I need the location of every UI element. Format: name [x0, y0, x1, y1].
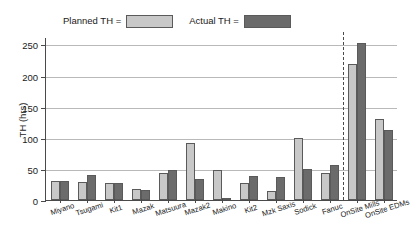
bar-group [73, 38, 100, 200]
legend-label-planned: Planned TH = [63, 16, 121, 26]
x-axis-tick [60, 199, 61, 203]
legend-entry-actual: Actual TH = [189, 15, 291, 28]
bar-planned [186, 143, 195, 200]
bar-group [208, 38, 235, 200]
bar-planned [267, 191, 276, 200]
x-axis-tick [303, 199, 304, 203]
legend-entry-planned: Planned TH = [63, 15, 173, 28]
x-axis-label-cell: Miyano [46, 203, 73, 247]
x-axis-label-text: Makino [211, 201, 237, 217]
bar-planned [348, 64, 357, 200]
x-axis-label-cell: Mazak [127, 203, 154, 247]
bar-planned [159, 173, 168, 200]
bar-group [262, 38, 289, 200]
planned-swatch [126, 15, 173, 28]
x-axis-tick [114, 199, 115, 203]
bar-planned [240, 183, 249, 200]
x-axis-tick [249, 199, 250, 203]
x-axis-label-cell: Matsuura [154, 203, 181, 247]
x-axis-label-cell: Kit1 [100, 203, 127, 247]
bar-group [370, 38, 397, 200]
x-axis-label-cell: OnSite EDMs [371, 203, 398, 247]
y-axis-tick-label: 50 [27, 164, 38, 175]
x-axis-label-cell: Makino [208, 203, 235, 247]
bar-group [343, 38, 370, 200]
bar-planned [213, 170, 222, 200]
bar-planned [375, 119, 384, 200]
x-axis-tick [276, 199, 277, 203]
y-axis-tick-label: 0 [33, 196, 38, 207]
x-axis-label-text: Kit1 [108, 203, 123, 216]
bar-group [316, 38, 343, 200]
bar-actual [141, 190, 150, 200]
x-axis-labels: MiyanoTsugamiKit1MazakMatsuuraMazak2Maki… [46, 203, 398, 247]
x-axis-label-text: Sodick [293, 201, 317, 217]
x-axis-tick [168, 199, 169, 203]
x-axis-label-text: Kit2 [243, 203, 258, 216]
x-axis-label-cell: Mazak2 [181, 203, 208, 247]
bar-actual [330, 165, 339, 200]
bar-actual [384, 130, 393, 200]
x-axis-label-text: Mazak2 [183, 201, 211, 218]
bar-planned [321, 173, 330, 200]
actual-swatch [244, 15, 291, 28]
bar-planned [105, 183, 114, 200]
bar-planned [78, 182, 87, 200]
bar-group [46, 38, 73, 200]
bar-group [100, 38, 127, 200]
x-axis-tick [195, 199, 196, 203]
bar-group [154, 38, 181, 200]
legend-label-actual: Actual TH = [189, 16, 239, 26]
y-axis-tick-label: 100 [22, 133, 38, 144]
bar-actual [276, 177, 285, 200]
x-axis-label-cell: Kit2 [236, 203, 263, 247]
bar-planned [132, 189, 141, 200]
x-axis-tick [357, 199, 358, 203]
bar-series-container [46, 38, 397, 200]
bar-actual [249, 176, 258, 200]
chart-legend: Planned TH = Actual TH = [63, 12, 291, 30]
bar-actual [87, 175, 96, 200]
bar-actual [357, 43, 366, 200]
bar-actual [303, 169, 312, 200]
bar-group [289, 38, 316, 200]
plot-area: TH (hrs) 050100150200250 [45, 38, 397, 201]
bar-actual [114, 183, 123, 200]
bar-planned [51, 181, 60, 200]
y-axis-tick [41, 201, 46, 202]
x-axis-tick [384, 199, 385, 203]
x-axis-tick [330, 199, 331, 203]
y-axis-tick-label: 150 [22, 102, 38, 113]
y-axis-tick-label: 200 [22, 71, 38, 82]
bar-group [181, 38, 208, 200]
x-axis-label-text: Mazak [131, 201, 155, 216]
x-axis-label-cell: Sodick [290, 203, 317, 247]
x-axis-tick [222, 199, 223, 203]
bar-actual [195, 179, 204, 200]
x-axis-label-cell: Mzk Saxis [263, 203, 290, 247]
bar-group [235, 38, 262, 200]
x-axis-tick [87, 199, 88, 203]
x-axis-label-text: Miyano [49, 201, 75, 217]
bar-planned [294, 138, 303, 200]
x-axis-tick [141, 199, 142, 203]
bar-actual [60, 181, 69, 200]
y-axis-tick-label: 250 [22, 40, 38, 51]
bar-group [127, 38, 154, 200]
bar-actual [168, 170, 177, 200]
x-axis-label-cell: Tsugami [73, 203, 100, 247]
